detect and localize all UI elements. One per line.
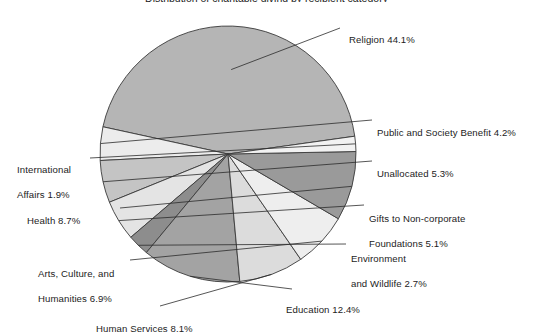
slice-label-gifts-to-non-corporate-foundations-line1: Gifts to Non-corporate [369,213,466,225]
pie-chart-figure: Distribution of charitable giving by rec… [0,0,533,333]
slice-label-arts-culture-and-humanities: Arts, Culture, and Humanities 6.9% [38,256,114,318]
slice-label-international-affairs-line2: Affairs 1.9% [17,189,71,201]
slice-label-environment-and-wildlife: Environment and Wildlife 2.7% [351,241,427,303]
slice-label-public-and-society-benefit-line1: Public and Society Benefit 4.2% [377,127,516,138]
slice-label-international-affairs-line1: International [17,164,71,176]
slice-label-education: Education 12.4% [286,292,360,317]
slice-label-health-line1: Health 8.7% [27,215,80,226]
slice-label-environment-and-wildlife-line2: and Wildlife 2.7% [351,278,427,290]
pie-slices-group [100,26,356,282]
slice-label-arts-culture-and-humanities-line1: Arts, Culture, and [38,268,114,280]
slice-label-religion: Religion 44.1% [349,22,415,47]
slice-label-environment-and-wildlife-line1: Environment [351,253,427,265]
slice-label-public-and-society-benefit: Public and Society Benefit 4.2% [377,115,516,140]
slice-label-arts-culture-and-humanities-line2: Humanities 6.9% [38,293,114,305]
slice-label-unallocated: Unallocated 5.3% [377,156,454,181]
slice-label-religion-line1: Religion 44.1% [349,34,415,45]
slice-label-human-services-line1: Human Services 8.1% [96,323,193,333]
slice-label-education-line1: Education 12.4% [286,304,360,315]
slice-label-unallocated-line1: Unallocated 5.3% [377,168,454,179]
slice-label-international-affairs: International Affairs 1.9% [17,152,71,214]
